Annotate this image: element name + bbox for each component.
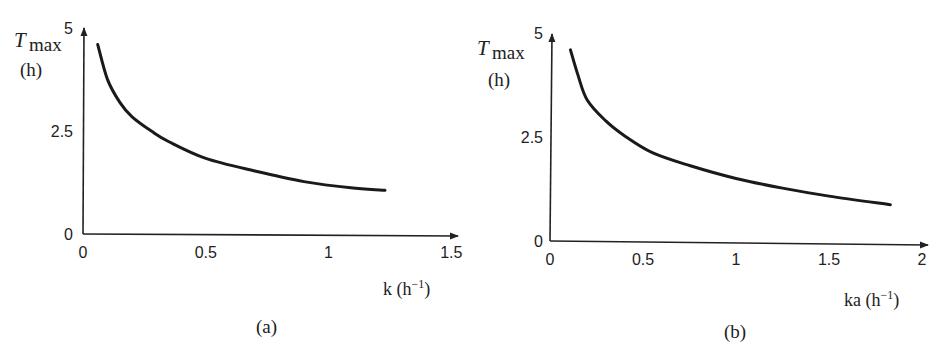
x-axis-label: k (h−1) xyxy=(383,277,430,300)
x-tick-label: 0 xyxy=(546,251,555,268)
x-tick-labels: 00.511.5 xyxy=(79,244,463,261)
x-tick-label: 2 xyxy=(918,251,927,268)
x-tick-label: 0 xyxy=(79,244,88,261)
y-axis-unit: (h) xyxy=(488,69,510,91)
x-tick-label: 1 xyxy=(324,244,333,261)
y-axis-label: T xyxy=(477,36,490,60)
figure: 02.55 00.511.5 T max (h) k (h−1) (a) 02.… xyxy=(0,0,937,357)
x-tick-labels: 00.511.52 xyxy=(546,251,927,268)
chart-panel-a: 02.55 00.511.5 T max (h) k (h−1) (a) xyxy=(14,20,462,338)
x-tick-label: 1 xyxy=(732,251,741,268)
panel-label: (a) xyxy=(256,316,277,338)
x-tick-label: 1.5 xyxy=(818,251,840,268)
x-axis xyxy=(550,241,928,245)
x-tick-label: 1.5 xyxy=(440,244,462,261)
y-tick-label: 0 xyxy=(64,226,73,243)
x-tick-label: 0.5 xyxy=(195,244,217,261)
x-tick-label: 0.5 xyxy=(632,251,654,268)
y-tick-label: 2.5 xyxy=(51,123,73,140)
y-tick-label: 5 xyxy=(534,25,543,42)
y-tick-label: 5 xyxy=(64,20,73,37)
panel-label: (b) xyxy=(724,321,746,343)
data-curve xyxy=(98,45,385,191)
x-axis-label: ka (h−1) xyxy=(844,288,899,311)
y-axis-label-sub: max xyxy=(492,42,525,63)
y-axis-unit: (h) xyxy=(20,59,42,81)
y-axis xyxy=(550,34,552,241)
y-axis-label: T xyxy=(14,28,27,52)
x-axis xyxy=(83,234,458,236)
y-axis xyxy=(83,28,84,234)
data-curve xyxy=(570,50,890,205)
chart-panel-b: 02.55 00.511.52 T max (h) ka (h−1) (b) xyxy=(477,25,928,343)
y-tick-label: 0 xyxy=(534,233,543,250)
y-tick-label: 2.5 xyxy=(521,129,543,146)
y-axis-label-sub: max xyxy=(29,34,62,55)
